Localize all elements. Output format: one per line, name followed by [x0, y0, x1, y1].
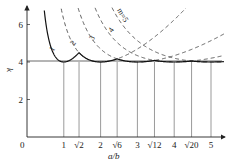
y-axis-label: k — [5, 68, 15, 73]
vertical-reference-lines — [64, 62, 211, 137]
x-tick-label: √6 — [112, 140, 122, 150]
curve-label-4: 4 — [106, 26, 116, 34]
curve-label-2: 2 — [68, 39, 78, 47]
x-axis-label: a/b — [108, 151, 120, 161]
x-axis-ticks: 1√22√63√124√205 — [62, 140, 214, 150]
x-tick-label: 4 — [172, 140, 177, 150]
y-axis-ticks: 246 — [19, 20, 31, 105]
y-tick-label: 6 — [19, 20, 24, 30]
envelope-curve — [44, 10, 224, 62]
origin-label: 0 — [20, 140, 25, 150]
buckling-coefficient-chart: 246 1√22√63√124√205 0 a/b k 1 2 3 4 m=5 — [0, 0, 234, 162]
x-tick-label: √20 — [185, 140, 199, 150]
y-tick-label: 2 — [19, 95, 24, 105]
y-tick-label: 4 — [19, 57, 24, 67]
curves-group — [44, 8, 224, 62]
curve-m3 — [78, 8, 224, 62]
x-tick-label: 3 — [135, 140, 140, 150]
curve-label-3: 3 — [87, 34, 97, 42]
x-tick-label: 5 — [209, 140, 214, 150]
x-tick-label: 1 — [62, 140, 67, 150]
x-tick-label: 2 — [98, 140, 103, 150]
x-tick-label: √2 — [74, 140, 83, 150]
curve-label-5: m=5 — [115, 7, 130, 24]
curve-label-1: 1 — [47, 45, 57, 53]
curve-m4 — [95, 8, 224, 62]
x-tick-label: √12 — [148, 140, 162, 150]
